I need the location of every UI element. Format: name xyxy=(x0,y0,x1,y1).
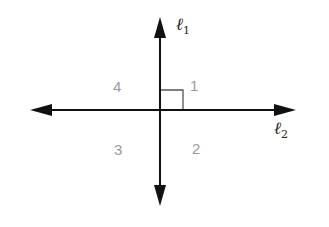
perpendicular-lines-diagram: ℓ1 ℓ2 1 2 3 4 xyxy=(0,0,329,227)
arrowhead-down-icon xyxy=(154,185,166,206)
right-angle-mark-icon xyxy=(161,90,183,109)
label-l1: ℓ1 xyxy=(176,14,190,37)
diagram-graphics xyxy=(0,0,329,227)
label-l2: ℓ2 xyxy=(274,118,288,141)
angle-label-3: 3 xyxy=(114,141,122,158)
angle-label-1: 1 xyxy=(190,77,198,94)
angle-label-4: 4 xyxy=(113,78,121,95)
arrowhead-up-icon xyxy=(154,17,166,38)
arrowhead-left-icon xyxy=(30,104,52,116)
angle-label-2: 2 xyxy=(192,140,200,157)
arrowhead-right-icon xyxy=(274,104,296,116)
